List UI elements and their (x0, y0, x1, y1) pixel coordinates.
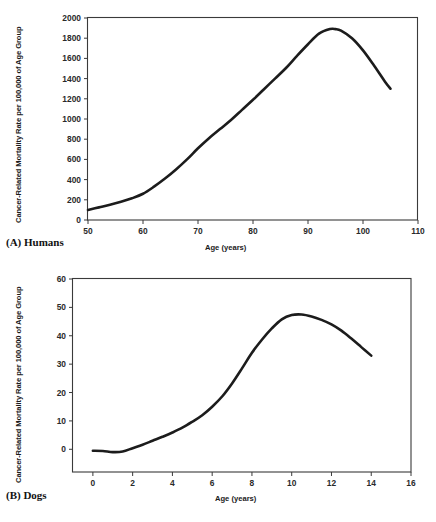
x-tick-label: 14 (367, 478, 377, 488)
x-tick-label: 0 (91, 478, 96, 488)
y-tick-group-dogs: 0102030405060 (57, 274, 73, 454)
y-tick-label: 2000 (62, 13, 81, 23)
plot-frame-dogs (73, 279, 412, 473)
y-tick-label: 60 (57, 274, 67, 284)
x-axis-label-dogs: Age (years) (215, 494, 256, 503)
x-tick-group-dogs: 0246810121416 (91, 472, 416, 488)
x-tick-label: 6 (210, 478, 215, 488)
y-tick-label: 1400 (62, 74, 81, 84)
y-tick-label: 800 (67, 134, 81, 144)
plot-area-humans: 0200400600800100012001400160018002000 50… (0, 0, 436, 261)
x-tick-label: 60 (138, 226, 148, 236)
plot-frame-humans (88, 18, 418, 221)
panel-dogs: Cancer-Related Mortality Rate per 100,00… (0, 261, 436, 522)
x-tick-group-humans: 5060708090100110 (83, 220, 425, 236)
caption-panel-a: (A) Humans (6, 236, 64, 248)
figure-container: Cancer-Related Mortality Rate per 100,00… (0, 0, 436, 522)
y-tick-label: 1800 (62, 33, 81, 43)
y-tick-label: 400 (67, 175, 81, 185)
x-tick-label: 10 (287, 478, 297, 488)
x-tick-label: 90 (303, 226, 313, 236)
x-tick-label: 110 (411, 226, 425, 236)
data-curve-humans (88, 29, 391, 210)
data-curve-dogs (93, 314, 371, 452)
x-tick-label: 70 (193, 226, 203, 236)
x-tick-label: 50 (83, 226, 93, 236)
x-tick-label: 16 (406, 478, 416, 488)
x-tick-label: 12 (327, 478, 337, 488)
plot-area-dogs: 0102030405060 0246810121416 (0, 261, 436, 522)
y-tick-label: 0 (61, 444, 66, 454)
y-tick-label: 200 (67, 195, 81, 205)
y-tick-label: 1600 (62, 53, 81, 63)
x-tick-label: 80 (248, 226, 258, 236)
y-tick-label: 600 (67, 154, 81, 164)
y-tick-label: 10 (57, 416, 67, 426)
y-tick-label: 50 (57, 302, 67, 312)
panel-humans: Cancer-Related Mortality Rate per 100,00… (0, 0, 436, 261)
y-tick-label: 40 (57, 331, 67, 341)
y-tick-group-humans: 0200400600800100012001400160018002000 (62, 13, 88, 225)
y-tick-label: 0 (76, 215, 81, 225)
x-tick-label: 2 (130, 478, 135, 488)
y-tick-label: 1000 (62, 114, 81, 124)
caption-panel-b: (B) Dogs (6, 489, 47, 501)
x-tick-label: 8 (250, 478, 255, 488)
x-tick-label: 100 (356, 226, 370, 236)
y-tick-label: 20 (57, 388, 67, 398)
x-axis-label-humans: Age (years) (205, 243, 246, 252)
x-tick-label: 4 (170, 478, 175, 488)
y-tick-label: 30 (57, 359, 67, 369)
y-tick-label: 1200 (62, 94, 81, 104)
